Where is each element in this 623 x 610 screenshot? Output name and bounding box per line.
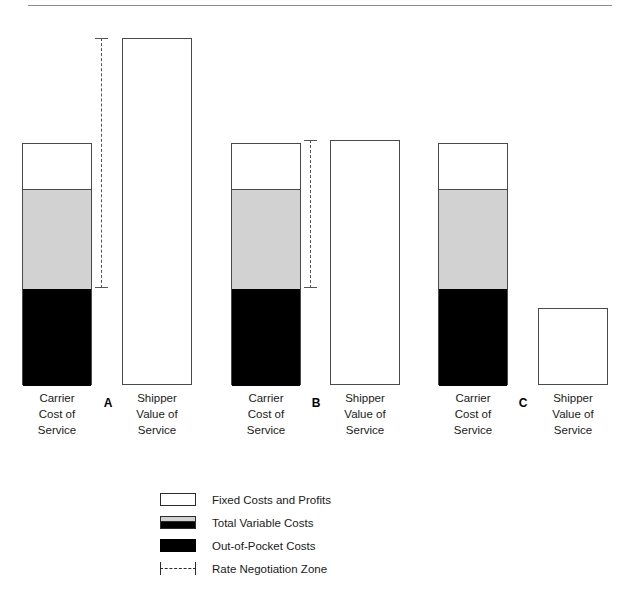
segment-fixed-costs-c: [439, 144, 507, 189]
legend-zone-cap-right: [195, 562, 196, 575]
shipper-value-bar-b: [330, 140, 400, 385]
figure-root: Carrier Cost of Service Shipper Value of…: [0, 0, 623, 610]
axis-label-line: Cost of: [427, 406, 519, 422]
segment-out-of-pocket-b: [232, 289, 300, 386]
legend-swatch-variable-gray-half: [161, 517, 195, 522]
carrier-cost-bar-a: [22, 143, 92, 385]
axis-label-carrier-c: Carrier Cost of Service: [427, 390, 519, 438]
axis-label-shipper-a: Shipper Value of Service: [111, 390, 203, 438]
axis-label-line: Carrier: [11, 390, 103, 406]
group-letter-b: B: [304, 396, 328, 410]
segment-out-of-pocket-c: [439, 289, 507, 386]
legend-label-total-variable: Total Variable Costs: [212, 513, 313, 533]
legend-swatch-out-of-pocket-icon: [160, 539, 196, 552]
segment-total-variable-b: [232, 189, 300, 289]
axis-label-line: Value of: [319, 406, 411, 422]
group-letter-a: A: [96, 396, 120, 410]
axis-label-line: Value of: [527, 406, 619, 422]
legend-label-out-of-pocket: Out-of-Pocket Costs: [212, 536, 316, 556]
legend-label-fixed-costs: Fixed Costs and Profits: [212, 490, 331, 510]
axis-label-line: Shipper: [527, 390, 619, 406]
shipper-value-bar-a: [122, 38, 192, 385]
carrier-cost-bar-c: [438, 143, 508, 385]
axis-label-line: Value of: [111, 406, 203, 422]
zone-stem-a: [101, 38, 102, 288]
axis-label-line: Shipper: [319, 390, 411, 406]
legend-swatch-fixed-costs-icon: [160, 493, 196, 506]
shipper-value-bar-c: [538, 308, 608, 385]
segment-fixed-costs-b: [232, 144, 300, 189]
zone-cap-bottom-b: [304, 287, 317, 288]
zone-cap-bottom-a: [95, 287, 108, 288]
axis-label-line: Shipper: [111, 390, 203, 406]
axis-label-shipper-c: Shipper Value of Service: [527, 390, 619, 438]
axis-label-line: Service: [11, 422, 103, 438]
axis-label-line: Service: [527, 422, 619, 438]
axis-label-line: Service: [111, 422, 203, 438]
axis-label-line: Service: [319, 422, 411, 438]
axis-label-line: Carrier: [220, 390, 312, 406]
carrier-cost-bar-b: [231, 143, 301, 385]
segment-fixed-costs-a: [23, 144, 91, 189]
legend-zone-dashed-line: [160, 568, 196, 569]
zone-stem-b: [310, 140, 311, 288]
axis-label-shipper-b: Shipper Value of Service: [319, 390, 411, 438]
segment-total-variable-c: [439, 189, 507, 289]
legend-swatch-rate-zone-icon: [160, 561, 196, 576]
segment-total-variable-a: [23, 189, 91, 289]
chart-plot-area: Carrier Cost of Service Shipper Value of…: [0, 0, 623, 470]
rate-negotiation-zone-a: [95, 38, 108, 288]
axis-label-line: Carrier: [427, 390, 519, 406]
legend-label-rate-negotiation-zone: Rate Negotiation Zone: [212, 559, 327, 579]
axis-label-line: Service: [427, 422, 519, 438]
axis-label-line: Cost of: [220, 406, 312, 422]
axis-label-line: Service: [220, 422, 312, 438]
chart-legend: Fixed Costs and Profits Total Variable C…: [0, 483, 623, 583]
rate-negotiation-zone-b: [304, 140, 317, 288]
axis-label-carrier-a: Carrier Cost of Service: [11, 390, 103, 438]
axis-label-carrier-b: Carrier Cost of Service: [220, 390, 312, 438]
axis-label-line: Cost of: [11, 406, 103, 422]
segment-out-of-pocket-a: [23, 289, 91, 386]
legend-swatch-total-variable-icon: [160, 516, 196, 529]
group-letter-c: C: [511, 396, 535, 410]
